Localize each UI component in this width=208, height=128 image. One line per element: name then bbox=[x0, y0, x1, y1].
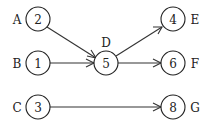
node-value: 1 bbox=[34, 57, 42, 71]
node-D: 5 D bbox=[94, 36, 118, 75]
node-C: 3 C bbox=[12, 95, 50, 119]
node-letter: F bbox=[191, 57, 199, 71]
edge-A-D bbox=[47, 27, 96, 58]
graph-canvas: 2 A 1 B 3 C 5 D 4 E 6 F 8 G bbox=[0, 0, 208, 128]
node-value: 6 bbox=[169, 57, 177, 71]
node-value: 3 bbox=[34, 101, 42, 115]
node-letter: D bbox=[101, 36, 111, 50]
node-value: 4 bbox=[169, 13, 177, 27]
node-letter: G bbox=[190, 101, 200, 115]
node-G: 8 G bbox=[161, 95, 200, 119]
node-letter: A bbox=[12, 13, 22, 27]
node-letter: E bbox=[191, 13, 200, 27]
edge-D-E bbox=[116, 27, 162, 56]
node-A: 2 A bbox=[12, 7, 50, 31]
node-value: 5 bbox=[102, 57, 110, 71]
node-value: 8 bbox=[169, 101, 177, 115]
node-value: 2 bbox=[34, 13, 42, 27]
node-E: 4 E bbox=[161, 7, 199, 31]
node-F: 6 F bbox=[161, 51, 199, 75]
node-B: 1 B bbox=[13, 51, 50, 75]
node-letter: B bbox=[13, 57, 22, 71]
arrowhead-icon bbox=[87, 50, 96, 58]
node-letter: C bbox=[12, 101, 21, 115]
